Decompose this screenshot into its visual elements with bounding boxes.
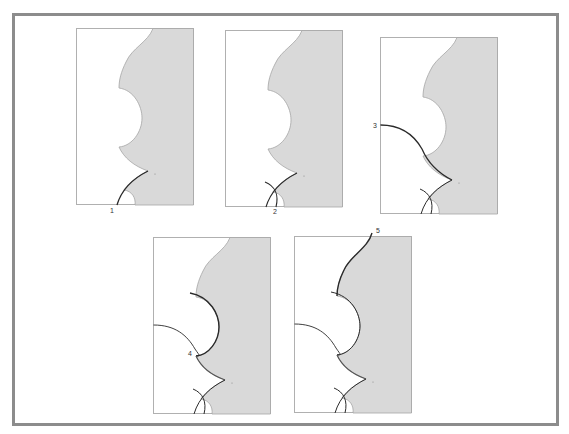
step-label-5: 5 — [376, 227, 380, 235]
panel-1 — [76, 28, 194, 205]
step-label-2: 2 — [273, 208, 277, 216]
step-label-1: 1 — [110, 207, 114, 215]
panel-2 — [225, 30, 343, 207]
gear-profile-diagram-1 — [76, 28, 194, 205]
gear-profile-diagram-2 — [225, 30, 343, 207]
step-label-4: 4 — [188, 350, 192, 358]
step-label-3: 3 — [373, 122, 377, 130]
panel-5 — [294, 236, 412, 413]
panel-3 — [380, 37, 498, 214]
gear-profile-diagram-4 — [153, 237, 271, 414]
panel-4 — [153, 237, 271, 414]
gear-profile-diagram-3 — [380, 37, 498, 214]
gear-profile-diagram-5 — [294, 236, 412, 413]
